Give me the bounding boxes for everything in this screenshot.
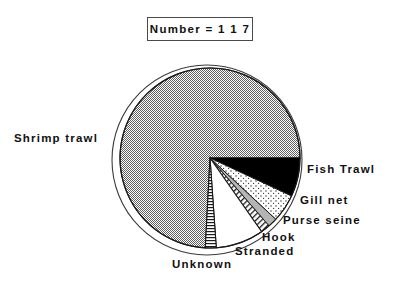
slice-label-unknown: Unknown — [172, 258, 232, 270]
slice-label-stranded: Stranded — [235, 245, 294, 257]
slice-label-hook: Hook — [262, 231, 296, 243]
slice-label-shrimp-trawl: Shrimp trawl — [14, 132, 98, 144]
pie-chart: Number = 1 1 7 Shrimp trawl Fish Trawl G… — [0, 0, 399, 287]
slice-label-purse-seine: Purse seine — [283, 214, 361, 226]
slice-label-gill-net: Gill net — [300, 194, 349, 206]
title-box: Number = 1 1 7 — [147, 17, 253, 41]
slice-label-fish-trawl: Fish Trawl — [307, 163, 375, 175]
page-title: Number = 1 1 7 — [150, 23, 250, 35]
